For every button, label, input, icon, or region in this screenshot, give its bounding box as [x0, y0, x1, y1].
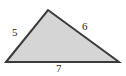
side-length-label-bottom: 7 — [56, 63, 62, 74]
triangle-figure: 5 6 7 — [0, 0, 126, 76]
triangle-polygon — [6, 10, 119, 62]
side-length-label-right: 6 — [82, 21, 88, 32]
side-length-label-left: 5 — [12, 27, 18, 38]
triangle-diagram — [0, 0, 126, 76]
